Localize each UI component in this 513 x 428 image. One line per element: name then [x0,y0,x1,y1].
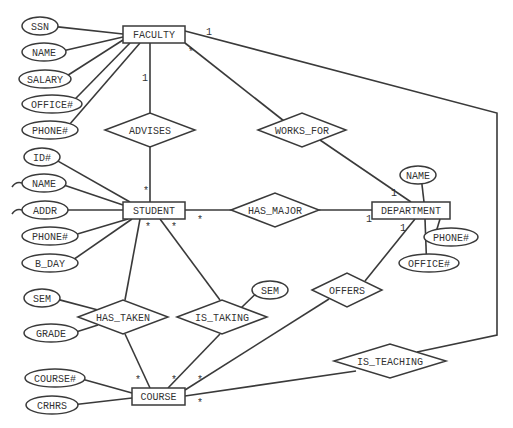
attribute-label: NAME [32,179,56,190]
cardinality-label: 1 [400,223,406,234]
clipped-connector [12,183,22,188]
attribute-link-faculty_office [76,43,130,98]
attribute-label: ID# [33,153,51,164]
attribute-student_id[interactable]: ID# [24,148,60,166]
cardinality-label: 1 [391,188,397,199]
entity-faculty[interactable]: FACULTY [123,26,185,43]
attribute-label: SEM [261,286,279,297]
attribute-student_name[interactable]: NAME [12,174,66,192]
attribute-label: SALARY [27,75,63,86]
attribute-dept_name[interactable]: NAME [400,166,436,184]
cardinality-label: * [188,47,194,58]
attribute-faculty_name[interactable]: NAME [22,43,66,61]
connection-student-is_taking [160,219,220,300]
attribute-label: COURSE# [34,374,76,385]
attribute-label: B_DAY [35,259,65,270]
attribute-label: GRADE [36,329,66,340]
relationship-works_for[interactable]: WORKS_FOR [258,113,346,147]
relationship-label: ADVISES [129,126,171,137]
attribute-link-has_taken_grade [78,325,98,331]
attribute-label: ADDR [33,206,57,217]
relationship-advises[interactable]: ADVISES [105,113,195,147]
relationship-label: WORKS_FOR [275,126,329,137]
cardinality-label: 1 [366,214,372,225]
attribute-link-course_num [84,380,132,393]
entity-label: STUDENT [133,206,175,217]
relationships-layer: ADVISESWORKS_FORHAS_MAJOROFFERSHAS_TAKEN… [78,113,446,378]
relationship-label: HAS_TAKEN [96,313,150,324]
connection-works_for-department [320,140,411,202]
attribute-link-is_taking_sem [241,295,255,308]
attribute-is_taking_sem[interactable]: SEM [252,281,288,299]
relationship-offers[interactable]: OFFERS [312,273,382,307]
cardinality-label: * [143,186,149,197]
connection-student-has_taken [125,219,140,300]
cardinality-label: 1 [206,27,212,38]
attribute-link-student_name [65,185,123,205]
attribute-label: NAME [406,171,430,182]
attribute-label: OFFICE# [31,100,73,111]
attribute-label: OFFICE# [408,259,450,270]
attribute-label: PHONE# [433,233,469,244]
attribute-has_taken_grade[interactable]: GRADE [24,324,78,342]
cardinality-label: 1 [142,73,148,84]
attribute-has_taken_sem[interactable]: SEM [24,289,60,307]
attribute-link-course_crhrs [78,398,132,404]
attribute-link-faculty_phone [70,43,140,124]
attribute-link-has_taken_sem [60,300,98,310]
cardinality-label: * [197,398,203,409]
cardinality-label: * [145,222,151,233]
attribute-label: SSN [31,22,49,33]
attribute-label: NAME [32,48,56,59]
cardinality-label: * [171,222,177,233]
attribute-link-faculty_ssn [58,27,123,34]
attribute-dept_phone[interactable]: PHONE# [424,228,478,246]
relationship-label: HAS_MAJOR [248,206,302,217]
attribute-link-faculty_name [66,37,123,50]
attribute-label: CRHRS [37,401,67,412]
attribute-label: PHONE# [32,126,68,137]
attribute-faculty_ssn[interactable]: SSN [22,17,58,35]
cardinality-label: * [135,375,141,386]
attribute-course_crhrs[interactable]: CRHRS [26,396,78,414]
attribute-label: PHONE# [32,232,68,243]
relationship-label: IS_TAKING [195,313,249,324]
cardinality-label: * [197,375,203,386]
connection-department-offers [365,219,415,281]
relationship-label: OFFERS [329,286,365,297]
attribute-faculty_phone[interactable]: PHONE# [22,121,78,139]
attribute-link-dept_name [422,184,424,202]
clipped-connector [12,210,22,215]
attribute-faculty_office[interactable]: OFFICE# [22,95,82,113]
attribute-faculty_salary[interactable]: SALARY [19,70,71,88]
relationship-label: IS_TEACHING [357,357,423,368]
attribute-student_phone[interactable]: PHONE# [22,227,78,245]
attribute-course_num[interactable]: COURSE# [25,369,85,387]
entity-student[interactable]: STUDENT [123,202,185,219]
attribute-link-dept_phone [437,219,440,229]
attribute-label: SEM [33,294,51,305]
entity-label: FACULTY [133,30,175,41]
relationship-has_major[interactable]: HAS_MAJOR [231,193,319,227]
cardinality-label: * [197,215,203,226]
entity-department[interactable]: DEPARTMENT [372,202,450,219]
cardinality-label: * [171,375,177,386]
er-diagram: ADVISESWORKS_FORHAS_MAJOROFFERSHAS_TAKEN… [0,0,513,428]
connection-is_teaching-course [185,371,356,396]
connection-faculty-works_for [185,43,284,121]
attribute-student_bday[interactable]: B_DAY [22,254,78,272]
relationship-has_taken[interactable]: HAS_TAKEN [78,300,168,334]
attribute-student_addr[interactable]: ADDR [12,201,68,219]
attribute-link-student_bday [75,219,132,259]
attribute-dept_office[interactable]: OFFICE# [399,254,459,272]
entity-label: COURSE [140,392,176,403]
relationship-is_taking[interactable]: IS_TAKING [177,300,267,334]
entity-course[interactable]: COURSE [132,388,185,405]
entity-label: DEPARTMENT [381,206,441,217]
